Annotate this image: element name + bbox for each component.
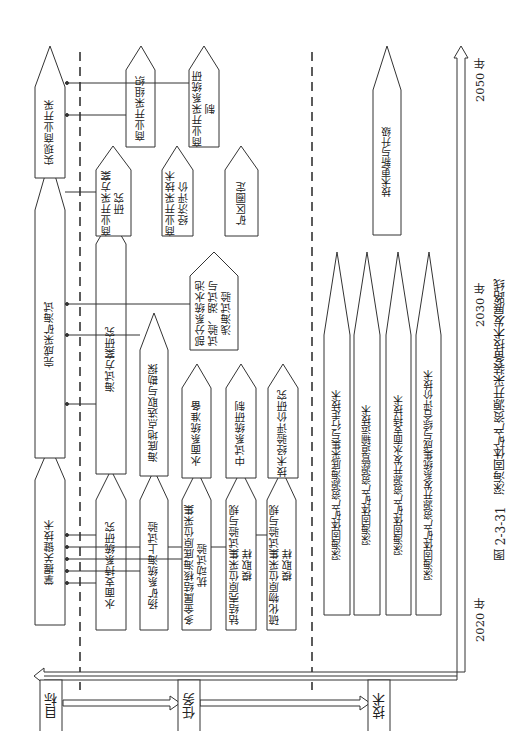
task-p2-2: 海底地点选取与勘探 (140, 350, 168, 476)
goal-3: 实现商业开采 (35, 87, 65, 178)
task-p2-4: 中试系统研制 (226, 388, 256, 478)
task-p3-1: 商业开采方案研究 (96, 170, 131, 236)
task-p3-2: 商业开采组织 (126, 70, 155, 147)
task-p2-6: 部分系统水池试验、湖试与浅海试验 (190, 276, 238, 350)
year-2050: 2050 年 (470, 40, 490, 120)
tech-1: 深海固体矿产资源海底采集与行走技术 (324, 335, 350, 615)
goal-2: 完成采矿海试 (35, 210, 65, 458)
task-p3-5: 矿区圈定 (225, 170, 258, 236)
goal-to-task-arrow (63, 696, 180, 710)
tech-5: 技术更新与升级 (373, 90, 401, 235)
task-p1-2: 扬矿系统海上试验 (140, 500, 168, 630)
task-p1-3: 多金属结核海底原位采集扰动试验 (182, 500, 211, 630)
timeline-axis (454, 46, 468, 672)
task-p1-1: 水面支持系统研究 (96, 500, 126, 630)
tech-2: 深海固体矿产资源管道输运技术 (354, 335, 380, 615)
task-p3-4: 商业开采系统研制 (189, 70, 219, 147)
year-2020: 2020 年 (470, 580, 490, 660)
year-2030: 2030 年 (470, 265, 490, 345)
figure-caption-title: 深海固体矿产资源开采装备技术发展路线 (495, 279, 508, 495)
task-to-tech-arrow (200, 696, 370, 710)
task-p1-4: 钴结壳原位采集试验与规模取样 (226, 500, 256, 630)
figure-caption-number: 图 2-3-31 (495, 507, 508, 561)
figure-caption: 图 2-3-31深海固体矿产资源开采装备技术发展路线 (490, 200, 512, 640)
task-p1-5: 硫化物原位采集试验与规模取样 (267, 500, 296, 630)
task-p2-1: 海试方案研究 (96, 244, 126, 474)
task-p2-3: 水面系统准备 (182, 388, 211, 478)
task-p3-3: 商业开采技术经济评价 (162, 170, 193, 236)
legend-goal-label: 目标 (40, 680, 62, 731)
legend-task-label: 任务 (178, 680, 200, 731)
legend-tech-label: 技术 (368, 680, 390, 731)
tech-4: 深海固体矿产资源开发系统集成与综合评价技术 (416, 335, 441, 615)
task-p2-5: 技术经验评价研究 (268, 388, 298, 478)
tech-3: 深海固体矿产资源开发水面支持技术 (386, 335, 411, 615)
goal-1: 掌握关键技术 (35, 480, 65, 625)
